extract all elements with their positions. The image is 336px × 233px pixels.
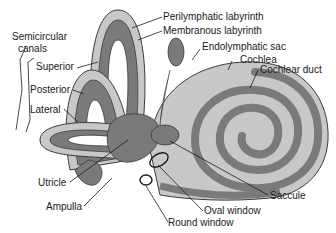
label-ampulla: Ampulla bbox=[46, 201, 83, 212]
label-perilymphatic-labyrinth: Perilymphatic labyrinth bbox=[163, 11, 264, 22]
label-round-window: Round window bbox=[168, 217, 234, 228]
label-semicircular-line2: canals bbox=[18, 43, 47, 54]
label-endolymphatic-sac: Endolymphatic sac bbox=[202, 41, 286, 52]
label-saccule: Saccule bbox=[270, 190, 306, 201]
label-lateral: Lateral bbox=[30, 104, 61, 115]
label-semicircular-line1: Semicircular bbox=[12, 31, 68, 42]
label-utricle: Utricle bbox=[38, 177, 67, 188]
label-cochlear-duct: Cochlear duct bbox=[260, 64, 322, 75]
label-posterior: Posterior bbox=[30, 84, 71, 95]
label-superior: Superior bbox=[36, 61, 74, 72]
inner-ear-diagram: Semicircular canals Superior Posterior L… bbox=[0, 0, 336, 233]
round-window-shape bbox=[140, 175, 152, 185]
label-membranous-labyrinth: Membranous labyrinth bbox=[163, 25, 262, 36]
label-oval-window: Oval window bbox=[204, 205, 261, 216]
